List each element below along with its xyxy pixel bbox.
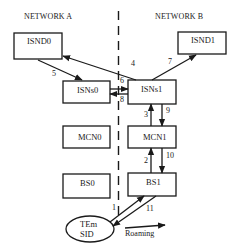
node-isnd0-label: ISND0 [27,36,51,46]
node-isns1-label: ISNs1 [141,84,162,94]
edge-5-label: 5 [52,69,56,78]
edge-6-label: 6 [120,76,124,85]
node-tem-label: TEm [80,219,97,229]
node-bs1: BS1 [128,173,176,196]
edge-5 [38,60,82,80]
node-sid-label: SID [80,229,94,239]
node-mcn0: MCN0 [63,126,110,148]
edge-3-label: 3 [144,110,148,119]
edge-11-label: 11 [146,204,154,213]
node-bs1-label: BS1 [146,177,161,187]
node-bs0: BS0 [63,174,110,198]
edge-2-label: 2 [144,156,148,165]
node-tem-sid: TEm SID [66,216,114,242]
node-isnd1-label: ISND1 [191,35,215,45]
roaming-arrow [125,225,165,228]
node-bs0-label: BS0 [80,178,95,188]
edge-4-label: 4 [131,59,135,68]
node-isns1: ISNs1 [128,80,176,104]
edge-8-label: 8 [120,95,124,104]
node-mcn0-label: MCN0 [78,132,102,142]
node-isnd0: ISND0 [14,33,62,59]
network-b-label: NETWORK B [155,12,203,21]
edge-7 [152,55,196,80]
edge-10-label: 10 [166,151,174,160]
edge-9-label: 9 [166,106,170,115]
network-a-label: NETWORK A [24,12,72,21]
node-isns0: ISNs0 [63,81,110,103]
node-isnd1: ISND1 [178,32,226,54]
node-mcn1-label: MCN1 [143,132,167,142]
edge-7-label: 7 [168,57,172,66]
node-mcn1: MCN1 [128,126,176,148]
roaming-label: Roaming [125,229,154,238]
edge-1-label: 1 [112,203,116,212]
network-roaming-diagram: NETWORK A NETWORK B ISND0 ISND1 ISNs0 IS… [0,0,238,252]
node-isns0-label: ISNs0 [77,85,98,95]
